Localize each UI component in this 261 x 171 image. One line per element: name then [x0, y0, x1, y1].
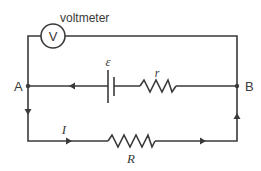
internal-resistor-icon [140, 80, 176, 92]
cell-branch: ε r [28, 54, 237, 103]
external-resistor-label: R [126, 151, 135, 166]
circuit-diagram: V voltmeter ε r I R A B [0, 0, 261, 171]
current-label: I [61, 122, 67, 137]
node-b-label: B [245, 79, 254, 94]
voltmeter-symbol: V [49, 29, 58, 44]
arrow-right-icon [200, 138, 206, 145]
external-resistor-icon [108, 135, 155, 147]
voltmeter-label: voltmeter [60, 11, 109, 25]
arrow-right-icon [66, 138, 72, 145]
arrow-left-icon [69, 83, 75, 90]
resistor-wire [28, 86, 237, 141]
internal-resistance-label: r [155, 66, 160, 80]
node-a-label: A [14, 79, 23, 94]
node-a-dot [26, 84, 30, 88]
node-b-dot [235, 84, 239, 88]
arrow-down-icon [25, 109, 32, 115]
voltmeter-branch: V voltmeter [28, 11, 237, 86]
arrow-up-icon [234, 113, 241, 119]
voltmeter-wire [28, 36, 237, 86]
resistor-branch: I R [25, 86, 241, 166]
emf-label: ε [105, 54, 111, 69]
